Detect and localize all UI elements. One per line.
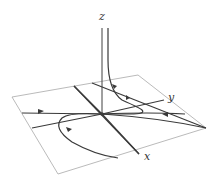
x-axis-label: x — [144, 150, 151, 163]
y-axis-label: y — [167, 91, 175, 104]
arrow-icon — [66, 127, 72, 132]
z-axis-label: z — [98, 10, 105, 23]
y-axis — [102, 100, 164, 114]
trajectory-left-loop — [59, 114, 118, 159]
phase-portrait-diagram: z y x — [0, 0, 222, 184]
grid-line-x-back — [74, 86, 102, 114]
origin-point — [100, 112, 104, 116]
x-axis — [102, 114, 139, 154]
